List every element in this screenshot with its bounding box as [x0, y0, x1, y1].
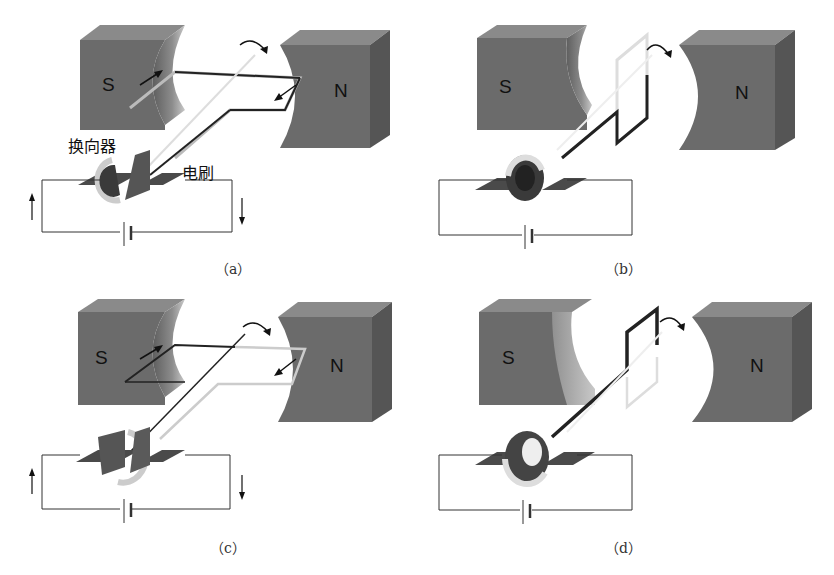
- motor-diagram-a: [0, 0, 417, 287]
- south-pole-label: S: [499, 76, 512, 98]
- panel-b: S N （b）: [417, 0, 834, 287]
- panel-d: S N （d）: [417, 287, 834, 574]
- motor-diagram-c: [0, 287, 417, 575]
- south-pole-label: S: [502, 347, 515, 369]
- caption-d: （d）: [605, 537, 642, 557]
- caption-c: （c）: [210, 537, 246, 557]
- north-pole-label: N: [330, 355, 344, 377]
- north-pole-label: N: [735, 82, 749, 104]
- south-pole-label: S: [95, 347, 108, 369]
- north-pole-label: N: [750, 355, 764, 377]
- north-pole-label: N: [334, 80, 348, 102]
- panel-c: S N （c）: [0, 287, 417, 574]
- south-magnet: [479, 299, 595, 405]
- caption-a: （a）: [215, 258, 251, 278]
- south-pole-label: S: [102, 74, 115, 96]
- commutator-label: 换向器: [68, 133, 116, 157]
- motor-diagram-b: [417, 0, 834, 287]
- motor-diagram-d: [417, 287, 834, 575]
- south-magnet: [477, 25, 592, 130]
- caption-b: （b）: [605, 258, 642, 278]
- brush-label: 电刷: [182, 160, 214, 184]
- panel-a: S N 换向器 电刷 （a）: [0, 0, 417, 287]
